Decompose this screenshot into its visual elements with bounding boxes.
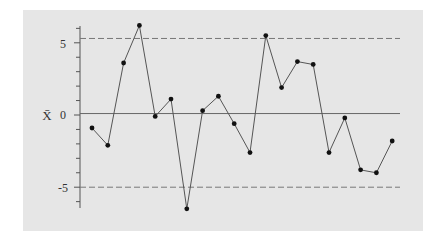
data-point-marker bbox=[153, 114, 158, 119]
data-point-marker bbox=[263, 33, 268, 38]
y-axis-label: X̄ bbox=[42, 108, 52, 123]
data-point-marker bbox=[184, 206, 189, 211]
data-point-marker bbox=[279, 85, 284, 90]
data-point-marker bbox=[90, 126, 95, 131]
control-chart: 5 0 -5 X̄ bbox=[0, 0, 446, 238]
y-tick-label-5: 5 bbox=[60, 37, 66, 51]
data-point-marker bbox=[390, 139, 395, 144]
data-point-marker bbox=[216, 94, 221, 99]
data-point-marker bbox=[358, 167, 363, 172]
data-point-marker bbox=[200, 108, 205, 113]
data-point-marker bbox=[374, 170, 379, 175]
data-point-marker bbox=[248, 150, 253, 155]
data-point-marker bbox=[311, 62, 316, 67]
data-point-marker bbox=[121, 61, 126, 66]
data-point-marker bbox=[232, 121, 237, 126]
data-point-marker bbox=[137, 23, 142, 28]
data-point-marker bbox=[295, 59, 300, 64]
y-tick-label-0: 0 bbox=[60, 108, 66, 122]
y-tick-label-neg5: -5 bbox=[58, 181, 68, 195]
data-point-marker bbox=[342, 115, 347, 120]
data-point-marker bbox=[105, 143, 110, 148]
data-point-marker bbox=[169, 97, 174, 102]
x-bar-markers bbox=[90, 23, 395, 211]
x-bar-series-line bbox=[92, 26, 392, 209]
data-point-marker bbox=[327, 150, 332, 155]
y-ticks bbox=[74, 28, 80, 201]
